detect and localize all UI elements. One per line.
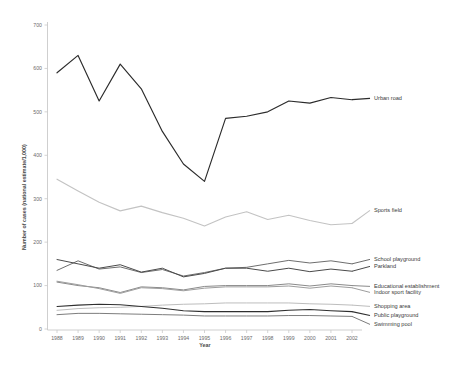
y-tick-label: 300 <box>33 196 42 202</box>
x-axis-title: Year <box>199 342 211 348</box>
y-tick-label: 400 <box>33 152 42 158</box>
series-label-sports-field: Sports field <box>374 207 402 213</box>
series-label-swimming-pool: Swimming pool <box>374 321 412 327</box>
x-tick-label: 1990 <box>93 335 105 341</box>
series-label-shopping-area: Shopping area <box>374 303 411 309</box>
x-tick-label: 2000 <box>304 335 316 341</box>
chart-container: 0100200300400500600700 19881989199019911… <box>0 0 468 369</box>
y-tick-label: 100 <box>33 282 42 288</box>
x-tick-label: 1995 <box>199 335 211 341</box>
y-axis-title: Number of cases (national estimate/1,000… <box>21 144 27 250</box>
series-label-parkland: Parkland <box>374 263 396 269</box>
x-tick-label: 1989 <box>72 335 84 341</box>
x-tick-label: 1997 <box>241 335 253 341</box>
x-tick-label: 2001 <box>325 335 337 341</box>
x-tick-label: 1999 <box>283 335 295 341</box>
series-label-school-playground: School playground <box>374 256 420 262</box>
x-tick-label: 1998 <box>262 335 274 341</box>
y-tick-label: 600 <box>33 65 42 71</box>
y-tick-label: 200 <box>33 239 42 245</box>
series-label-public-playground: Public playground <box>374 312 418 318</box>
y-tick-label: 0 <box>39 326 42 332</box>
x-tick-label: 1994 <box>178 335 190 341</box>
x-tick-label: 1992 <box>136 335 148 341</box>
line-chart: 0100200300400500600700 19881989199019911… <box>0 0 468 369</box>
series-label-indoor-sport-facility: Indoor sport facility <box>374 289 421 295</box>
y-tick-label: 500 <box>33 109 42 115</box>
x-tick-label: 1991 <box>114 335 126 341</box>
x-tick-label: 1988 <box>51 335 63 341</box>
x-tick-label: 1993 <box>157 335 169 341</box>
y-tick-label: 700 <box>33 22 42 28</box>
x-tick-label: 1996 <box>220 335 232 341</box>
x-tick-label: 2002 <box>346 335 358 341</box>
series-label-urban-road: Urban road <box>374 95 402 101</box>
